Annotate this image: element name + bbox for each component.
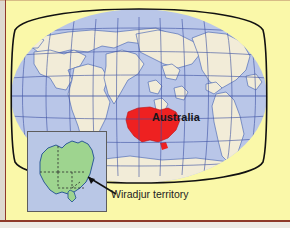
wiradjur-territory-label: Wiradjur territory <box>111 188 189 200</box>
australia-label: Australia <box>152 111 200 123</box>
bottom-margin-strip <box>0 221 290 228</box>
frame-bottom-rule <box>0 220 290 222</box>
frame-left-rule <box>5 0 6 222</box>
frame-top-accent <box>0 0 290 1</box>
map-figure: Australia Wiradjur territory <box>0 0 290 228</box>
